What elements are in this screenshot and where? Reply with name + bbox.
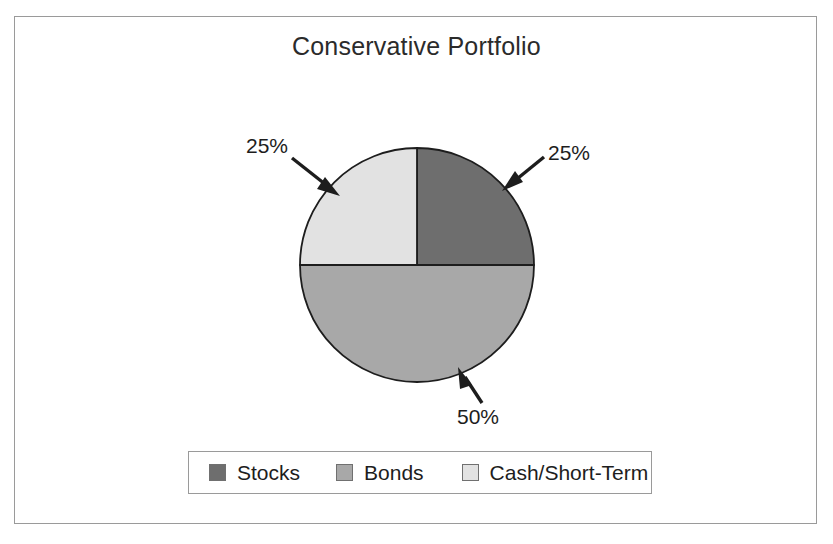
arrow-cash-short-term	[292, 158, 340, 196]
data-label-cash-short-term: 25%	[246, 134, 288, 158]
pie-slice-stocks[interactable]	[417, 148, 534, 265]
legend-item-cash-short-term[interactable]: Cash/Short-Term	[462, 461, 649, 485]
legend-swatch-stocks	[209, 464, 226, 481]
data-label-bonds: 50%	[457, 405, 499, 429]
pie-slice-cash-short-term[interactable]	[300, 148, 417, 265]
pie-slices	[300, 148, 534, 382]
data-label-stocks: 25%	[548, 141, 590, 165]
pie-slice-bonds[interactable]	[300, 265, 534, 382]
chart-page: Conservative Portfolio	[0, 0, 833, 544]
legend-swatch-bonds	[336, 464, 353, 481]
legend-swatch-cash-short-term	[462, 464, 479, 481]
legend-label-cash-short-term: Cash/Short-Term	[490, 461, 649, 485]
legend-item-bonds[interactable]: Bonds	[336, 461, 424, 485]
chart-legend: Stocks Bonds Cash/Short-Term	[188, 451, 652, 494]
arrow-stocks	[502, 157, 544, 191]
legend-label-stocks: Stocks	[237, 461, 300, 485]
arrow-bonds	[458, 367, 482, 403]
legend-item-stocks[interactable]: Stocks	[209, 461, 300, 485]
legend-label-bonds: Bonds	[364, 461, 424, 485]
